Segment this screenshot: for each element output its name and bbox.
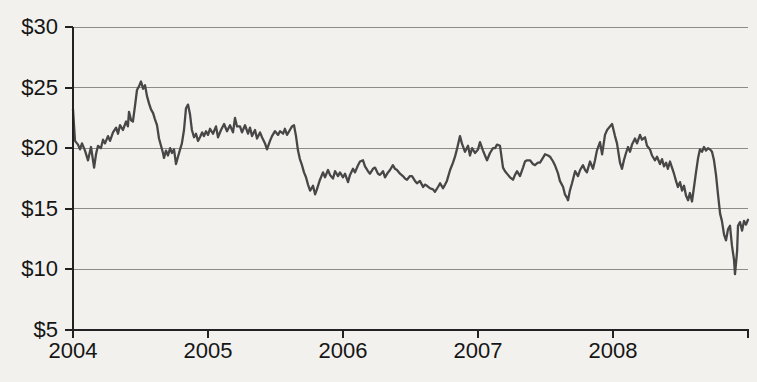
y-axis-label: $10 (0, 258, 58, 280)
y-axis-label: $20 (0, 137, 58, 159)
price-chart-svg (0, 0, 757, 382)
y-axis-label: $25 (0, 77, 58, 99)
x-axis-label: 2008 (573, 340, 653, 362)
x-axis-label: 2007 (438, 340, 518, 362)
price-line (73, 82, 748, 275)
stock-price-chart: $5$10$15$20$25$30 20042005200620072008 (0, 0, 757, 382)
x-axis-label: 2006 (303, 340, 383, 362)
x-axis-label: 2004 (33, 340, 113, 362)
y-axis-label: $30 (0, 16, 58, 38)
x-axis-label: 2005 (168, 340, 248, 362)
y-axis-label: $15 (0, 198, 58, 220)
